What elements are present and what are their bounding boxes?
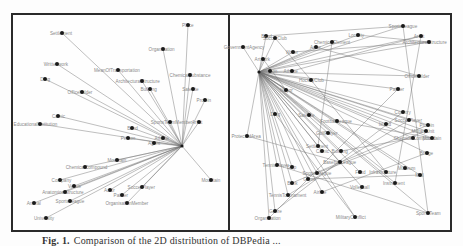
figure-caption: Fig. 1.Comparison of the 2D distribution… <box>42 235 281 246</box>
graph-node <box>273 112 277 116</box>
graph-node <box>384 170 388 174</box>
graph-node <box>401 110 405 114</box>
graph-node <box>58 178 62 182</box>
graph-node <box>417 74 421 78</box>
graph-edge <box>163 49 182 146</box>
graph-node <box>320 190 324 194</box>
graph-node <box>427 40 431 44</box>
graph-node <box>108 188 112 192</box>
graph-node <box>140 79 144 83</box>
graph-node <box>309 78 313 82</box>
graph-node <box>241 45 245 49</box>
graph-node <box>188 73 192 77</box>
graph-node <box>186 23 190 27</box>
graph-node <box>356 33 360 37</box>
graph-node <box>60 31 64 35</box>
graph-node <box>307 113 311 117</box>
graph-node <box>152 141 156 145</box>
graph-node <box>290 69 294 73</box>
graph-node <box>290 181 294 185</box>
graph-node <box>245 134 249 138</box>
graph-edge <box>316 47 419 76</box>
graph-node <box>403 166 407 170</box>
graph-node <box>316 144 320 148</box>
graph-node <box>273 209 277 213</box>
graph-edge <box>247 72 259 136</box>
graph-node <box>396 87 400 91</box>
graph-node <box>55 62 59 66</box>
graph-edge <box>266 26 403 36</box>
graph-node <box>401 24 405 28</box>
node-label: Satellite <box>182 87 199 92</box>
graph-node <box>314 45 318 49</box>
graph-node <box>161 136 165 140</box>
graph-node <box>140 185 144 189</box>
graph-node <box>306 177 310 181</box>
graph-edge <box>259 72 432 138</box>
graph-node <box>44 216 48 220</box>
graph-node <box>203 98 207 102</box>
graph-hub-node <box>257 70 260 73</box>
graph-node <box>291 50 295 54</box>
graph-node <box>411 136 415 140</box>
graph-node <box>430 136 434 140</box>
graph-node <box>126 136 130 140</box>
graph-edge <box>311 80 386 172</box>
graph-node <box>284 88 288 92</box>
graph-node <box>338 160 342 164</box>
graph-node <box>38 122 42 126</box>
graph-node <box>358 170 362 174</box>
graph-node <box>56 114 60 118</box>
graph-node <box>197 120 201 124</box>
graph-edge <box>182 25 188 146</box>
graph-node <box>353 215 357 219</box>
graph-node <box>267 216 271 220</box>
graph-node <box>315 171 319 175</box>
graph-edge <box>269 89 398 218</box>
graph-node <box>426 123 430 127</box>
graph-node <box>330 40 334 44</box>
graph-node <box>273 36 277 40</box>
node-label: Infrastructure <box>369 170 397 175</box>
graph-edge <box>275 38 311 80</box>
graph-node <box>275 163 279 167</box>
graph-node <box>326 131 330 135</box>
graph-node <box>125 201 129 205</box>
graph-node <box>80 90 84 94</box>
graph-node <box>426 211 430 215</box>
node-label: ArchitecturalStructure <box>116 79 161 84</box>
graph-node <box>290 165 294 169</box>
graph-node <box>83 165 87 169</box>
graph-node <box>68 199 72 203</box>
graph-node <box>425 151 429 155</box>
graph-node <box>209 178 213 182</box>
graph-node <box>261 57 265 61</box>
graph-edge <box>259 36 266 72</box>
graph-node <box>419 34 423 38</box>
graph-node <box>32 201 36 205</box>
graph-node <box>120 193 124 197</box>
graph-node <box>339 149 343 153</box>
graph-node <box>424 129 428 133</box>
caption-label: Fig. 1. <box>42 235 70 246</box>
panel-right-graph: SportsLeagueBandSoccerClubLocalityArtist… <box>224 24 447 221</box>
node-label: MilitaryUnit <box>412 129 435 134</box>
caption-text: Comparison of the 2D distribution of DBP… <box>74 235 281 246</box>
graph-node <box>320 149 324 153</box>
panel-left-graph: PlaceSettlementOrganisationWrittenworkMe… <box>14 23 221 221</box>
graph-node <box>116 68 120 72</box>
graph-node <box>63 190 67 194</box>
graph-node <box>393 181 397 185</box>
node-label: Volleyball <box>350 185 369 190</box>
node-label: EducationalInstitution <box>14 122 58 127</box>
graph-edge <box>308 175 420 179</box>
graph-node <box>115 158 119 162</box>
graph-node <box>286 193 290 197</box>
graph-node <box>407 118 411 122</box>
graph-node <box>130 126 134 130</box>
graph-node <box>335 119 339 123</box>
graph-node <box>191 87 195 91</box>
graph-edge <box>182 122 199 146</box>
node-label: MilitaryConflict <box>336 215 367 220</box>
